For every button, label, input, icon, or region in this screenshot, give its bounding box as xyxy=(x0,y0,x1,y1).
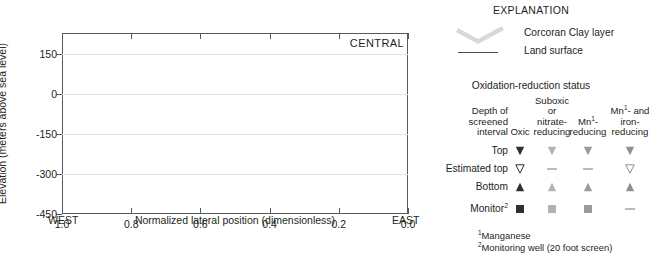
legend-cell-mn-estimated-top xyxy=(580,162,596,176)
legend-glyph-square-filled xyxy=(544,202,560,216)
legend-glyph-dash xyxy=(544,162,560,176)
gridline-y xyxy=(62,134,408,135)
gridline-y xyxy=(62,174,408,175)
legend-row-label-bottom: Bottom xyxy=(476,181,508,192)
x-tick-mark-top xyxy=(200,33,201,39)
y-tick-label: 0 xyxy=(51,88,57,100)
legend-cell-suboxic-estimated-top xyxy=(544,162,560,176)
legend-glyph-up-triangle-filled xyxy=(622,180,638,194)
legend-glyph-up-triangle-filled xyxy=(580,180,596,194)
legend-cell-mn_iron-top xyxy=(622,144,638,158)
legend-glyph-dash xyxy=(580,162,596,176)
explanation-block: EXPLANATION Corcoran Clay layer Land sur… xyxy=(412,0,650,266)
legend-row-land-surface: Land surface xyxy=(456,44,650,62)
legend-cell-mn-top xyxy=(580,144,596,158)
x-tick-mark-top xyxy=(62,33,63,39)
x-tick-mark-top xyxy=(131,33,132,39)
figure-root: 1500-150-300-4501.00.80.60.40.20.0 CENTR… xyxy=(0,0,650,266)
legend-cell-oxic-bottom xyxy=(512,180,528,194)
gridlines xyxy=(62,33,408,214)
legend-cell-suboxic-monitor xyxy=(544,202,560,216)
legend-cell-suboxic-top xyxy=(544,144,560,158)
legend-cell-mn_iron-estimated-top xyxy=(622,162,638,176)
corcoran-clay-swatch-icon xyxy=(456,24,516,44)
x-tick-mark-top xyxy=(408,33,409,39)
gridline-y xyxy=(62,94,408,95)
panel-label-central: CENTRAL xyxy=(350,37,404,49)
gridline-y xyxy=(62,54,408,55)
y-tick-label: -150 xyxy=(36,128,57,140)
y-tick-label: 150 xyxy=(39,48,57,60)
legend-row-clay: Corcoran Clay layer xyxy=(456,24,650,44)
legend-glyph-down-triangle-filled xyxy=(580,144,596,158)
legend-cell-mn_iron-bottom xyxy=(622,180,638,194)
x-tick-mark-top xyxy=(339,33,340,39)
legend-row-label-monitor: Monitor2 xyxy=(470,203,508,214)
chart-plot-area: 1500-150-300-4501.00.80.60.40.20.0 CENTR… xyxy=(62,33,408,214)
footnotes: 1Manganese2Monitoring well (20 foot scre… xyxy=(478,230,612,254)
legend-glyph-down-triangle-filled xyxy=(622,144,638,158)
legend-label-land-surface: Land surface xyxy=(524,45,583,56)
x-tick-mark-top xyxy=(270,33,271,39)
legend-glyph-up-triangle-filled xyxy=(544,180,560,194)
footnote: 2Monitoring well (20 foot screen) xyxy=(478,242,612,254)
legend-row-label-estimated-top: Estimated top xyxy=(446,163,508,174)
legend-glyph-down-triangle-open xyxy=(622,162,638,176)
legend-glyph-down-triangle-open xyxy=(512,162,528,176)
legend-cell-oxic-monitor xyxy=(512,202,528,216)
legend-glyph-down-triangle-filled xyxy=(544,144,560,158)
footnote: 1Manganese xyxy=(478,230,612,242)
y-tick-label: -300 xyxy=(36,168,57,180)
y-axis-label: Elevation (meters above sea level) xyxy=(0,33,10,214)
legend-row-label-top: Top xyxy=(492,145,508,156)
land-surface-swatch-icon xyxy=(458,52,498,53)
legend-cell-mn_iron-monitor xyxy=(622,202,638,216)
legend-glyph-square-filled xyxy=(512,202,528,216)
legend-col-header-mn-iron-reducing: Mn1- andiron-reducing xyxy=(602,106,650,138)
legend-cell-suboxic-bottom xyxy=(544,180,560,194)
legend-col-header-depth: Depth ofscreenedinterval xyxy=(412,106,508,138)
legend-glyph-down-triangle-filled xyxy=(512,144,528,158)
legend-cell-mn-bottom xyxy=(580,180,596,194)
explanation-title: EXPLANATION xyxy=(412,4,650,16)
legend-cell-oxic-top xyxy=(512,144,528,158)
legend-cell-oxic-estimated-top xyxy=(512,162,528,176)
legend-cell-mn-monitor xyxy=(580,202,596,216)
x-axis-label: Normalized lateral position (dimensionle… xyxy=(62,214,408,226)
legend-glyph-up-triangle-filled xyxy=(512,180,528,194)
legend-glyph-dash xyxy=(622,202,638,216)
legend-glyph-square-filled xyxy=(580,202,596,216)
x-axis-west-label: WEST xyxy=(48,214,78,226)
legend-label-clay: Corcoran Clay layer xyxy=(524,27,614,38)
redox-status-title: Oxidation-reduction status xyxy=(412,80,650,91)
